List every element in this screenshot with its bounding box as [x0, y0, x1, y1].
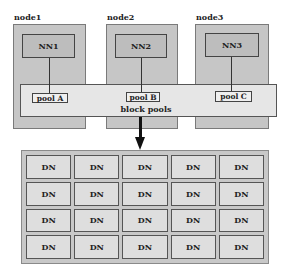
datanode: DN — [171, 155, 216, 179]
datanode: DN — [122, 155, 167, 179]
pool-a: pool A — [32, 93, 68, 103]
namenode-nn2: NN2 — [115, 34, 167, 58]
pool-c: pool C — [215, 91, 252, 102]
namenode-nn1: NN1 — [22, 34, 75, 58]
datanode: DN — [219, 235, 264, 259]
node1-label: node1 — [14, 12, 41, 22]
datanode: DN — [219, 155, 264, 179]
connector-nn1-pool-a — [49, 58, 50, 93]
datanode: DN — [122, 209, 167, 233]
datanode-grid: DN DN DN DN DN DN DN DN DN DN DN DN DN D… — [26, 155, 264, 259]
datanode: DN — [74, 182, 119, 206]
namenode-nn3: NN3 — [205, 33, 259, 57]
datanode: DN — [171, 182, 216, 206]
connector-nn3-pool-c — [231, 57, 232, 91]
datanode: DN — [26, 182, 71, 206]
datanode: DN — [74, 209, 119, 233]
datanode: DN — [74, 235, 119, 259]
datanode: DN — [26, 209, 71, 233]
datanode: DN — [26, 155, 71, 179]
connector-nn2-pool-b — [141, 58, 142, 92]
datanode: DN — [26, 235, 71, 259]
datanode: DN — [74, 155, 119, 179]
block-pools-label: block pools — [110, 104, 182, 114]
datanode: DN — [219, 209, 264, 233]
datanode: DN — [171, 235, 216, 259]
pool-b: pool B — [126, 92, 160, 102]
arrow-down-icon — [134, 117, 146, 151]
node3-label: node3 — [196, 12, 223, 22]
datanode: DN — [122, 182, 167, 206]
datanode: DN — [122, 235, 167, 259]
datanode: DN — [171, 209, 216, 233]
datanode: DN — [219, 182, 264, 206]
node2-label: node2 — [107, 12, 134, 22]
datanode-cluster: DN DN DN DN DN DN DN DN DN DN DN DN DN D… — [21, 150, 269, 264]
